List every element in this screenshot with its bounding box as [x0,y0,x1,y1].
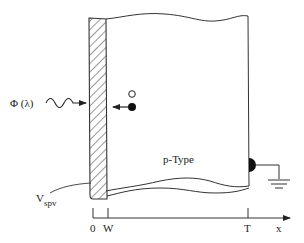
ground-wire [255,165,279,179]
axis-label-x: x [276,222,282,234]
ground-icon [268,180,290,188]
axis-label-0: 0 [90,222,96,234]
vspv-leader [50,183,91,193]
hatched-region [89,18,107,199]
vspv-label: Vspv [36,192,57,208]
contact-dot-icon [249,158,256,172]
photon-wave-icon [46,99,86,108]
x-axis: 0 W T x [90,208,290,234]
bottom-wave [107,188,249,196]
illumination: Φ (λ) [10,97,86,110]
material-label: p-Type [163,153,194,165]
illumination-label: Φ (λ) [10,97,34,110]
axis-label-t: T [244,222,251,234]
back-contact [249,158,290,188]
vspv-annotation: Vspv [36,183,91,208]
electron-icon [128,103,136,111]
spv-diagram: Φ (λ) p-Type Vspv 0 W T x [0,0,304,243]
axis-label-w: W [103,222,114,234]
hole-icon [129,91,136,98]
